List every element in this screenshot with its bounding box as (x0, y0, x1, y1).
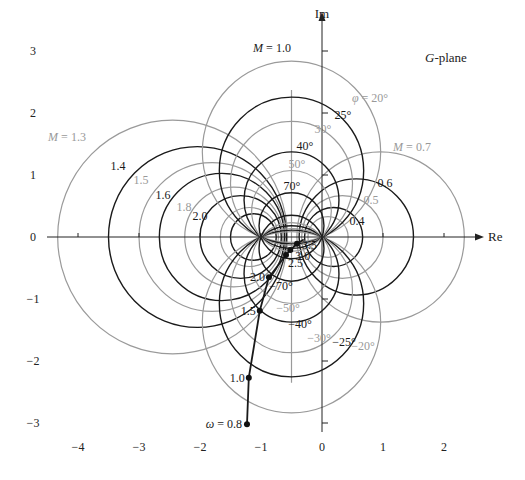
n-circle-label: −25° (332, 335, 356, 349)
n-circle-label: −50° (276, 301, 300, 315)
m-circle-label: 2.0 (193, 209, 208, 223)
m-circle-label: 0.4 (350, 214, 365, 228)
y-tick-label: −1 (27, 292, 40, 306)
y-tick-label: 3 (30, 44, 36, 58)
g-plane-chart: Re Im G-plane −4−3−2−10123210−1−2−3 M = … (0, 0, 525, 480)
locus-point (266, 274, 272, 280)
m-circle-label: 0.5 (364, 193, 379, 207)
m-circle-label: M = 1.3 (47, 130, 86, 144)
x-tick-label: 1 (380, 440, 386, 454)
x-tick-label: 0 (319, 440, 325, 454)
m-circle-label: M = 0.7 (392, 140, 431, 154)
x-tick-label: −2 (194, 440, 207, 454)
n-circle-label: 25° (335, 108, 352, 122)
g-plane-label: G-plane (425, 50, 467, 65)
m-circle-label: 1.6 (156, 188, 171, 202)
n-circle-label: 30° (315, 122, 332, 136)
y-tick-label: 2 (30, 106, 36, 120)
x-tick-label: −1 (255, 440, 268, 454)
locus-point-label: 2.0 (250, 270, 265, 284)
n-circle-label: 50° (289, 157, 306, 171)
axes: Re Im G-plane (47, 6, 503, 432)
x-tick-label: 2 (441, 440, 447, 454)
x-tick-label: −4 (72, 440, 85, 454)
locus-point-label: 3.5 (302, 238, 317, 252)
locus-point-label: 1.5 (241, 304, 256, 318)
n-circle-label: 40° (297, 139, 314, 153)
y-tick-label: 0 (30, 230, 36, 244)
n-circle-label: −70° (269, 279, 293, 293)
m-circle-label: 0.6 (378, 176, 393, 190)
n-circle-label: −30° (307, 331, 331, 345)
frequency-locus: ω = 0.81.01.52.02.53.03.5 (206, 238, 317, 431)
y-tick-label: −3 (27, 416, 40, 430)
locus-point (257, 308, 263, 314)
axis-ticks: −4−3−2−10123210−1−2−3 (27, 44, 447, 454)
m-circle-label: 1.5 (134, 173, 149, 187)
locus-point-label: ω = 0.8 (206, 417, 242, 431)
re-axis-label: Re (488, 229, 503, 244)
locus-point (287, 247, 293, 253)
n-circle-label: 70° (284, 179, 301, 193)
y-tick-label: 1 (30, 168, 36, 182)
locus-point (246, 375, 252, 381)
y-tick-label: −2 (27, 354, 40, 368)
n-circle-label: φ = 20° (352, 91, 388, 105)
locus-point-label: 1.0 (230, 371, 245, 385)
im-axis-label: Im (315, 6, 329, 21)
m-circle-label: 1.4 (111, 159, 126, 173)
n-circle-label: −40° (288, 317, 312, 331)
locus-point (244, 421, 250, 427)
x-tick-label: −3 (133, 440, 146, 454)
locus-point (294, 241, 300, 247)
m-circle-label: 1.8 (177, 200, 192, 214)
m-line-label: M = 1.0 (252, 41, 291, 55)
re-axis-arrow-icon (475, 234, 484, 241)
